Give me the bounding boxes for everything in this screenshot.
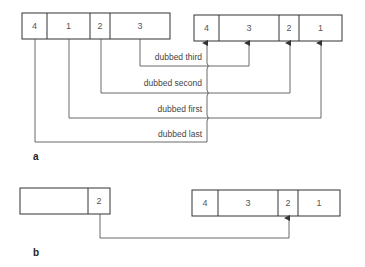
source-cell-3: 3 [137, 21, 142, 31]
source-cell-2: 2 [97, 21, 102, 31]
b-dest-cell-2: 2 [285, 198, 290, 208]
dest-cell-4: 4 [204, 23, 209, 33]
source-cell-1: 1 [66, 21, 71, 31]
b-dest-cell-4: 4 [202, 198, 207, 208]
panel-b-label: b [33, 247, 39, 258]
panel-a-source-tape: 4 1 2 3 [22, 13, 170, 39]
dubbing-diagram: 4 1 2 3 4 3 2 1 dubbed third dubbed seco… [0, 0, 365, 267]
panel-a-label: a [33, 151, 39, 162]
dest-cell-2: 2 [286, 23, 291, 33]
b-dest-cell-3: 3 [245, 198, 250, 208]
label-dubbed-first: dubbed first [158, 104, 203, 114]
label-dubbed-third: dubbed third [155, 52, 203, 62]
source-cell-4: 4 [32, 21, 37, 31]
panel-b-source-tape: 2 [20, 188, 110, 214]
b-dest-cell-1: 1 [316, 198, 321, 208]
panel-a-dest-tape: 4 3 2 1 [194, 15, 342, 41]
panel-b-dest-tape: 4 3 2 1 [192, 190, 340, 216]
panel-b-connector [100, 214, 289, 238]
connector-dubbed-third: dubbed third [140, 39, 249, 66]
b-source-cell-2: 2 [96, 196, 101, 206]
label-dubbed-last: dubbed last [158, 129, 203, 139]
dest-cell-1: 1 [318, 23, 323, 33]
dest-cell-3: 3 [246, 23, 251, 33]
label-dubbed-second: dubbed second [144, 78, 202, 88]
